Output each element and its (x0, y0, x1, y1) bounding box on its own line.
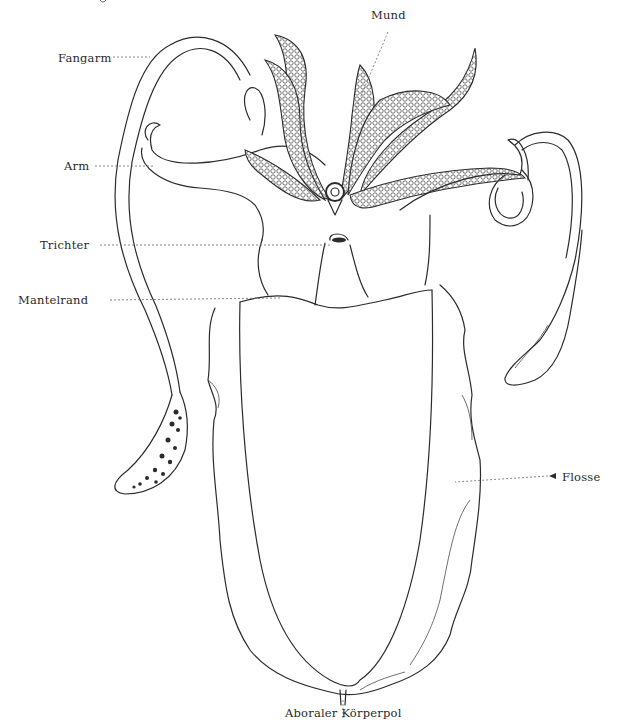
mantle-rim (240, 290, 432, 308)
label-aboraler-koerperpol: Aboraler Körperpol (285, 706, 402, 720)
label-trichter: Trichter (40, 238, 89, 252)
arm-crown (245, 35, 525, 215)
tentacle-club-suckers (132, 410, 181, 489)
leader-lines (95, 32, 548, 720)
label-fangarm: Fangarm (58, 51, 111, 65)
cropped-caption-fragment (100, 0, 106, 2)
flosse-arrowhead (549, 473, 556, 479)
label-mund: Mund (371, 8, 406, 22)
mantle (208, 285, 481, 705)
head (258, 215, 430, 305)
label-arm: Arm (64, 159, 89, 173)
left-tentacle (115, 37, 250, 494)
cuttlefish-illustration (0, 0, 618, 724)
label-mantelrand: Mantelrand (18, 293, 88, 307)
label-flosse: Flosse (562, 470, 600, 484)
